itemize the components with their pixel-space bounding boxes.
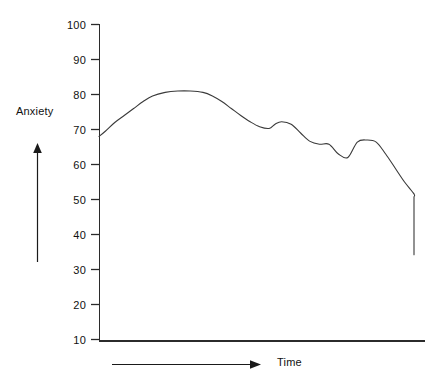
y-tick-label: 10 — [73, 334, 86, 346]
y-tick-label: 30 — [73, 264, 86, 276]
y-tick-label: 90 — [73, 54, 86, 66]
x-axis-direction-arrow — [112, 360, 261, 369]
data-series-anxiety — [99, 91, 415, 255]
y-tick-label: 50 — [73, 194, 86, 206]
chart-canvas: 100 90 80 70 60 50 40 30 20 10 — [0, 0, 438, 388]
y-tick-label: 100 — [67, 19, 86, 31]
y-tick-label: 60 — [73, 159, 86, 171]
y-arrow-head-icon — [33, 143, 42, 153]
x-arrow-head-icon — [250, 360, 261, 369]
x-axis-title: Time — [277, 356, 302, 368]
y-axis-tick-labels: 100 90 80 70 60 50 40 30 20 10 — [67, 19, 86, 346]
y-tick-label: 40 — [73, 229, 86, 241]
anxiety-line-path — [99, 91, 415, 255]
y-tick-label: 70 — [73, 124, 86, 136]
anxiety-over-time-chart: 100 90 80 70 60 50 40 30 20 10 Anxiety T… — [0, 0, 438, 388]
y-axis-title: Anxiety — [16, 105, 53, 117]
y-tick-label: 20 — [73, 299, 86, 311]
y-tick-label: 80 — [73, 89, 86, 101]
y-axis-ticks — [91, 25, 99, 340]
axes-group — [99, 24, 425, 342]
y-axis-direction-arrow — [33, 143, 42, 262]
